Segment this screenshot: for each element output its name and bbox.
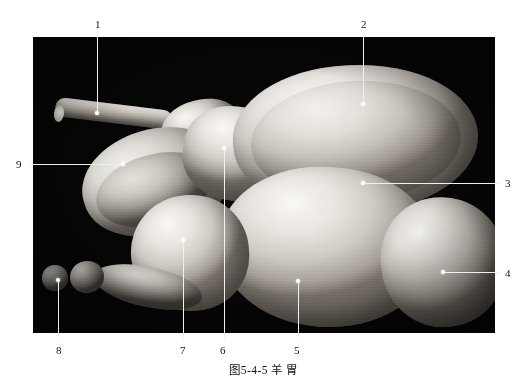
leader-line-4 [443,272,499,273]
leader-dot-4 [441,270,445,274]
leader-line-5 [298,281,299,338]
callout-label-4: 4 [505,268,511,279]
callout-label-6: 6 [220,345,226,356]
figure-page: 1 2 3 4 5 6 7 8 9 图5-4-5 羊 胃 [0,0,527,384]
leader-dot-3 [361,181,365,185]
specimen-photograph [33,37,495,333]
figure-caption: 图5-4-5 羊 胃 [0,361,527,377]
callout-label-2: 2 [361,19,367,30]
leader-line-1 [97,31,98,113]
leader-dot-7 [181,238,185,242]
callout-label-1: 1 [95,19,101,30]
callout-label-7: 7 [180,345,186,356]
pylorus-tip-shape [42,265,68,291]
callout-label-9: 9 [16,159,22,170]
leader-line-7 [183,240,184,338]
leader-dot-1 [95,111,99,115]
leader-dot-8 [56,278,60,282]
callout-label-3: 3 [505,178,511,189]
leader-dot-9 [121,162,125,166]
pylorus-shape [68,259,106,295]
leader-line-6 [224,148,225,338]
leader-dot-5 [296,279,300,283]
leader-line-2 [363,31,364,104]
leader-line-9 [30,164,123,165]
leader-dot-2 [361,102,365,106]
leader-line-8 [58,280,59,338]
leader-line-3 [363,183,499,184]
callout-label-8: 8 [56,345,62,356]
leader-dot-6 [222,146,226,150]
callout-label-5: 5 [294,345,300,356]
